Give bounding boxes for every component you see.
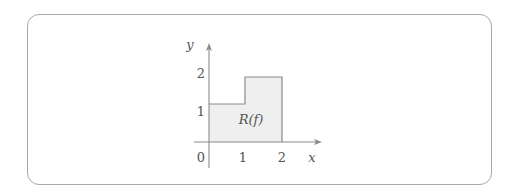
step-function-diagram: y 2 1 0 1 2 x R(f): [0, 0, 516, 195]
y-axis-label: y: [185, 37, 194, 52]
x-tick-1: 1: [239, 150, 247, 165]
x-tick-2: 2: [278, 150, 286, 165]
origin-label: 0: [197, 150, 205, 165]
x-axis-label: x: [308, 150, 316, 165]
y-tick-2: 2: [197, 66, 205, 81]
region-label: R(f): [238, 112, 264, 127]
y-tick-1: 1: [197, 104, 205, 119]
